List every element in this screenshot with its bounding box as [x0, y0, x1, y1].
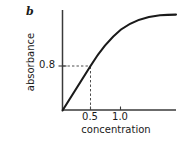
absorbance-curve [63, 15, 177, 111]
x-axis-tick-label-1: 1.0 [108, 112, 132, 122]
x-axis-label: concentration [70, 125, 162, 135]
y-axis-label: absorbance [26, 20, 36, 104]
y-axis-tick-label-0: 0.8 [33, 60, 55, 70]
x-axis-tick-label-0: 0.5 [78, 112, 102, 122]
figure-panel-b: b 0.8 0.5 1.0 absorbance concentration [0, 0, 180, 143]
